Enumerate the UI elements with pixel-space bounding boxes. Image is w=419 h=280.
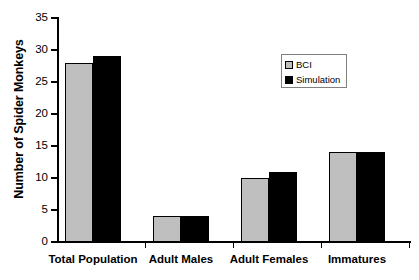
bar-bci	[329, 152, 357, 242]
legend-label-simulation: Simulation	[296, 75, 340, 85]
y-tick-label: 10	[2, 172, 48, 184]
legend: BCI Simulation	[281, 54, 347, 88]
legend-item-bci: BCI	[285, 58, 346, 71]
x-tick-mark	[321, 242, 322, 248]
x-tick-mark	[145, 242, 146, 248]
y-tick-label-wrap: 5	[0, 204, 48, 216]
y-tick-label: 0	[2, 236, 48, 248]
x-tick-mark	[409, 242, 410, 248]
bar-simulation	[269, 172, 297, 242]
y-tick-label-wrap: 15	[0, 140, 48, 152]
x-category-label: Immatures	[297, 253, 417, 265]
bar-simulation	[93, 56, 121, 242]
x-tick-mark	[233, 242, 234, 248]
y-tick-label-wrap: 30	[0, 44, 48, 56]
y-tick-label-wrap: 20	[0, 108, 48, 120]
legend-label-bci: BCI	[296, 60, 312, 70]
bar-bci	[241, 178, 269, 242]
y-tick-label-wrap: 35	[0, 12, 48, 24]
plot-area	[57, 18, 409, 242]
y-tick-label-wrap: 10	[0, 172, 48, 184]
legend-swatch-simulation	[285, 76, 293, 84]
y-tick-label-wrap: 0	[0, 236, 48, 248]
y-tick-label: 20	[2, 108, 48, 120]
y-tick-label: 30	[2, 44, 48, 56]
bar-bci	[65, 63, 93, 242]
y-tick-label: 5	[2, 204, 48, 216]
legend-item-simulation: Simulation	[285, 73, 346, 86]
bar-bci	[153, 216, 181, 242]
bar-chart: Number of Spider Monkeys 05101520253035 …	[0, 0, 419, 280]
legend-swatch-bci	[285, 61, 293, 69]
y-tick-label: 25	[2, 76, 48, 88]
bar-simulation	[357, 152, 385, 242]
y-tick-label: 15	[2, 140, 48, 152]
bar-simulation	[181, 216, 209, 242]
y-tick-label: 35	[2, 12, 48, 24]
y-tick-label-wrap: 25	[0, 76, 48, 88]
